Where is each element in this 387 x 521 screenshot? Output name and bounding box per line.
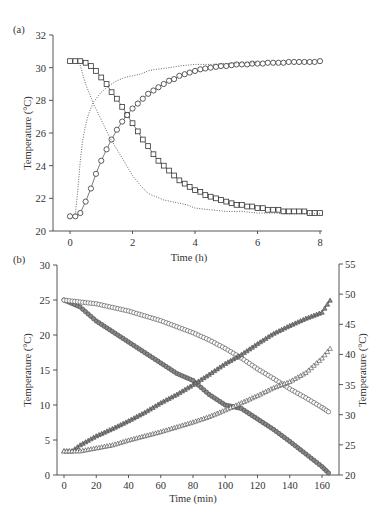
circle-marker	[130, 106, 135, 111]
square-marker	[104, 82, 109, 87]
circle-marker	[67, 214, 72, 219]
series-line	[64, 300, 330, 451]
y-tick-label-a: 30	[36, 63, 47, 74]
square-marker	[198, 189, 203, 194]
x-tick-label-a: 0	[67, 237, 72, 248]
square-marker	[297, 209, 302, 214]
square-marker	[229, 201, 234, 206]
circle-marker	[307, 59, 312, 64]
x-tick-label-b: 0	[61, 480, 66, 491]
circle-marker	[114, 127, 119, 132]
chart-panel-b: (b) 051015202530 2025303540455055 020406…	[13, 254, 369, 505]
circle-marker	[182, 72, 187, 77]
triangle-marker	[325, 302, 330, 306]
square-marker	[219, 198, 224, 203]
circle-marker	[88, 186, 93, 191]
circle-marker	[99, 158, 104, 163]
y-tick-label-left-b: 15	[40, 365, 51, 376]
circle-marker	[78, 210, 83, 215]
circle-marker	[286, 59, 291, 64]
circle-marker	[208, 65, 213, 70]
y-tick-label-a: 22	[36, 193, 47, 204]
square-marker	[255, 206, 260, 211]
circle-marker	[265, 60, 270, 65]
series-line	[64, 300, 328, 412]
circle-marker	[296, 59, 301, 64]
square-marker	[208, 194, 213, 199]
circle-marker	[156, 85, 161, 90]
circle-marker	[271, 60, 276, 65]
panel-label-a: (a)	[13, 24, 25, 36]
y-tick-label-left-b: 0	[45, 470, 50, 481]
circle-marker	[171, 77, 176, 82]
square-marker	[68, 59, 73, 64]
circle-marker	[120, 119, 125, 124]
circle-marker	[83, 199, 88, 204]
square-marker	[234, 202, 239, 207]
x-tick-label-b: 120	[250, 480, 266, 491]
circle-marker	[198, 67, 203, 72]
y-tick-label-right-b: 25	[345, 440, 356, 451]
y-ticks-left-b: 051015202530	[40, 260, 58, 481]
y-tick-label-a: 24	[36, 161, 47, 172]
y-tick-label-a: 32	[36, 30, 47, 41]
x-tick-label-b: 80	[188, 480, 199, 491]
square-marker	[286, 209, 291, 214]
square-marker	[302, 209, 307, 214]
triangle-marker	[322, 306, 327, 310]
circle-marker	[192, 68, 197, 73]
y-tick-label-left-b: 30	[40, 260, 51, 271]
x-tick-label-a: 6	[255, 237, 260, 248]
y-axis-title-right-b: Temperature (°C)	[357, 333, 369, 407]
square-marker	[214, 196, 219, 201]
series-b	[62, 298, 333, 475]
circle-marker	[125, 112, 130, 117]
x-tick-label-b: 60	[156, 480, 167, 491]
square-marker	[260, 206, 265, 211]
x-tick-label-b: 40	[123, 480, 134, 491]
square-marker	[265, 207, 270, 212]
circle-marker	[213, 64, 218, 69]
square-marker	[109, 90, 114, 95]
circle-marker	[302, 59, 307, 64]
figure: (a) 20222426283032 02468 Time (h) Temper…	[0, 0, 387, 521]
y-axis-title-left-b: Temperature (°C)	[22, 333, 34, 407]
circle-marker	[312, 59, 317, 64]
circle-marker	[250, 61, 255, 66]
circle-marker	[224, 63, 229, 68]
square-marker	[78, 59, 83, 64]
x-axis-title-b: Time (min)	[169, 493, 217, 505]
square-marker	[83, 60, 88, 65]
x-tick-label-b: 20	[91, 480, 102, 491]
circle-marker	[166, 78, 171, 83]
square-marker	[177, 178, 182, 183]
square-marker	[99, 75, 104, 80]
square-marker	[292, 209, 297, 214]
circle-marker	[93, 171, 98, 176]
series-a	[67, 59, 322, 219]
square-marker	[203, 193, 208, 198]
x-tick-label-b: 160	[314, 480, 330, 491]
triangle-marker	[328, 346, 333, 350]
circle-marker	[317, 59, 322, 64]
square-marker	[161, 163, 166, 168]
square-marker	[307, 211, 312, 216]
square-marker	[146, 144, 151, 149]
y-tick-label-right-b: 20	[345, 470, 356, 481]
series-line-dotted	[75, 63, 257, 215]
x-axis-title-a: Time (h)	[171, 252, 208, 264]
circle-marker	[161, 81, 166, 86]
y-tick-label-right-b: 45	[345, 319, 356, 330]
square-marker	[120, 104, 125, 109]
square-marker	[187, 185, 192, 190]
y-tick-label-right-b: 55	[345, 259, 356, 270]
square-marker	[182, 181, 187, 186]
panel-label-b: (b)	[13, 254, 26, 266]
y-ticks-right-b: 2025303540455055	[339, 259, 356, 481]
circle-marker	[146, 91, 151, 96]
y-tick-label-right-b: 35	[345, 380, 356, 391]
y-tick-label-a: 20	[36, 226, 47, 237]
x-tick-label-a: 8	[317, 237, 322, 248]
y-tick-label-left-b: 5	[45, 435, 50, 446]
square-marker	[156, 158, 161, 163]
